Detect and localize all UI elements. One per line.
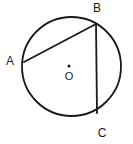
center-point-label: O [65, 70, 74, 82]
main-circle [22, 17, 121, 116]
circle-geometry-figure: O A B C [0, 0, 133, 144]
chord-bc [96, 24, 97, 113]
vertex-label-a: A [6, 54, 14, 68]
geometry-canvas: O A B C [0, 0, 133, 144]
vertex-label-b: B [93, 1, 101, 15]
center-point-dot [68, 65, 71, 68]
vertex-label-c: C [98, 126, 107, 140]
chord-ab [24, 24, 96, 62]
